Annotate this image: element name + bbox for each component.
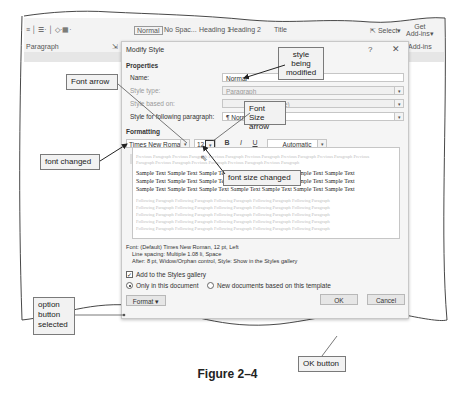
font-arrow-icon[interactable]: ▾ <box>180 140 189 147</box>
style-type-select[interactable]: Paragraph▾ <box>222 86 404 95</box>
chevron-down-icon: ▾ <box>317 140 326 147</box>
ok-button[interactable]: OK <box>320 294 358 305</box>
style-normal[interactable]: Normal <box>134 26 163 35</box>
close-icon[interactable]: ✕ <box>392 44 400 54</box>
preview-following: Following Paragraph Following Paragraph … <box>136 212 330 217</box>
style-heading2[interactable]: Heading 2 <box>229 26 261 33</box>
add-to-gallery-checkbox[interactable]: ✓ <box>126 271 133 278</box>
style-heading1[interactable]: Heading 1 <box>199 26 231 33</box>
only-this-document-radio[interactable] <box>126 282 133 289</box>
style-no-spacing[interactable]: No Spac... <box>164 26 197 33</box>
callout-font-size-arrow: Font Size arrow <box>244 101 286 125</box>
preview-following: Following Paragraph Following Paragraph … <box>136 219 330 224</box>
preview-following: Following Paragraph Following Paragraph … <box>136 198 330 203</box>
cancel-button[interactable]: Cancel <box>367 294 405 305</box>
callout-style-modified: style being modified <box>278 47 324 80</box>
style-based-label: Style based on: <box>130 100 175 107</box>
paragraph-launcher-icon[interactable]: ⇲ <box>112 43 118 51</box>
get-addins-button[interactable]: GetAdd-ins▾ <box>406 23 434 38</box>
new-documents-label: New documents based on this template <box>217 282 331 289</box>
style-preview: Previous Paragraph Previous Paragraph Pr… <box>132 147 400 239</box>
paragraph-group-label: Paragraph <box>26 43 59 50</box>
select-button[interactable]: ⇱ Select▾ <box>370 27 401 35</box>
callout-font-changed: font changed <box>40 154 100 170</box>
cursor-icon: ⇱ <box>370 27 376 34</box>
preview-previous: Paragraph Previous Paragraph Previous Pa… <box>136 160 299 165</box>
style-description: Font: (Default) Times New Roman, 12 pt, … <box>126 244 297 265</box>
style-title[interactable]: Title <box>274 26 287 33</box>
preview-following: Following Paragraph Following Paragraph … <box>136 226 330 231</box>
figure-caption: Figure 2–4 <box>0 367 455 381</box>
ribbon-list-icons[interactable]: ≡ │ ☰· │ ◇·▦· <box>26 26 72 34</box>
chevron-down-icon: ▾ <box>394 100 403 107</box>
help-button[interactable]: ? <box>368 45 372 54</box>
only-this-document-label: Only in this document <box>136 282 199 289</box>
preview-sample: Sample Text Sample Text Sample Text Samp… <box>136 186 355 192</box>
callout-font-size-changed: font size changed <box>223 170 301 186</box>
formatting-heading: Formatting <box>126 128 160 135</box>
chevron-down-icon: ▾ <box>394 87 403 94</box>
format-button[interactable]: Format ▾ <box>126 295 166 306</box>
mouse-pointer-icon: ⇖ <box>200 153 208 163</box>
style-type-label: Style type: <box>130 87 160 94</box>
addins-group-label: Add-ins <box>408 43 432 50</box>
preview-previous: Previous Paragraph Previous Paragraph Pr… <box>136 154 369 159</box>
following-style-label: Style for following paragraph: <box>130 113 214 120</box>
callout-font-arrow: Font arrow <box>66 74 118 90</box>
callout-option-selected: option button selected <box>33 297 75 335</box>
dialog-title: Modify Style <box>126 46 164 53</box>
chevron-down-icon: ▾ <box>394 113 403 120</box>
new-documents-radio[interactable] <box>207 282 214 289</box>
properties-heading: Properties <box>126 62 158 69</box>
add-to-gallery-label: Add to the Styles gallery <box>136 271 206 278</box>
preview-following: Following Paragraph Following Paragraph … <box>136 205 330 210</box>
name-label: Name: <box>130 74 149 81</box>
